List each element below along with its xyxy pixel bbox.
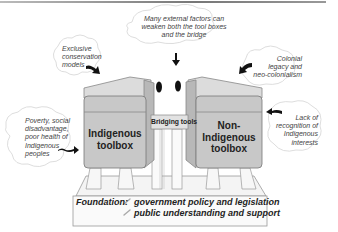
cloud-text-line: Colonial: [246, 55, 302, 63]
cloud-text-line: Poverty, social: [25, 117, 70, 125]
cloud-text-line: peoples: [25, 150, 70, 158]
label-line: Indigenous: [196, 132, 262, 144]
cloud-text-line: poor health of: [25, 133, 70, 141]
cloud-text-line: models: [62, 61, 102, 69]
cloud-text-line: recognition of: [268, 122, 318, 130]
cloud-text-line: Indigenous: [25, 142, 70, 150]
cloud-text-line: weaken both the tool boxes: [134, 23, 234, 31]
cloud-text-line: conservation: [62, 53, 102, 61]
cloud-external-factors: Many external factors can weaken both th…: [134, 15, 234, 40]
cloud-text-line: interests: [268, 139, 318, 147]
cloud-exclusive-conservation: Exclusive conservation models: [62, 45, 102, 70]
foundation-item-public: public understanding and support: [134, 208, 280, 219]
cloud-text-line: disadvantage,: [25, 125, 70, 133]
foundation-label: Foundation:: [76, 197, 128, 208]
cloud-text-line: neo-colonialism: [246, 71, 302, 79]
label-line: Indigenous: [84, 128, 146, 140]
label-line: Non-: [196, 120, 262, 132]
non-indigenous-toolbox-label: Non- Indigenous toolbox: [196, 120, 262, 155]
label-line: toolbox: [84, 140, 146, 152]
cloud-colonial-legacy: Colonial legacy and neo-colonialism: [246, 55, 302, 80]
cloud-text-line: and the bridge: [134, 31, 234, 39]
cloud-text-line: Exclusive: [62, 45, 102, 53]
cloud-poverty: Poverty, social disadvantage, poor healt…: [25, 117, 70, 158]
cloud-lack-recognition: Lack of recognition of Indigenous intere…: [268, 114, 318, 147]
bridging-tools-label: Bridging tools: [151, 118, 188, 125]
cloud-text-line: legacy and: [246, 63, 302, 71]
label-line: toolbox: [196, 143, 262, 155]
foundation-item-government: government policy and legislation: [134, 197, 280, 208]
cloud-text-line: Many external factors can: [134, 15, 234, 23]
indigenous-toolbox-label: Indigenous toolbox: [84, 128, 146, 151]
cloud-text-line: Indigenous: [268, 130, 318, 138]
cloud-text-line: Lack of: [268, 114, 318, 122]
